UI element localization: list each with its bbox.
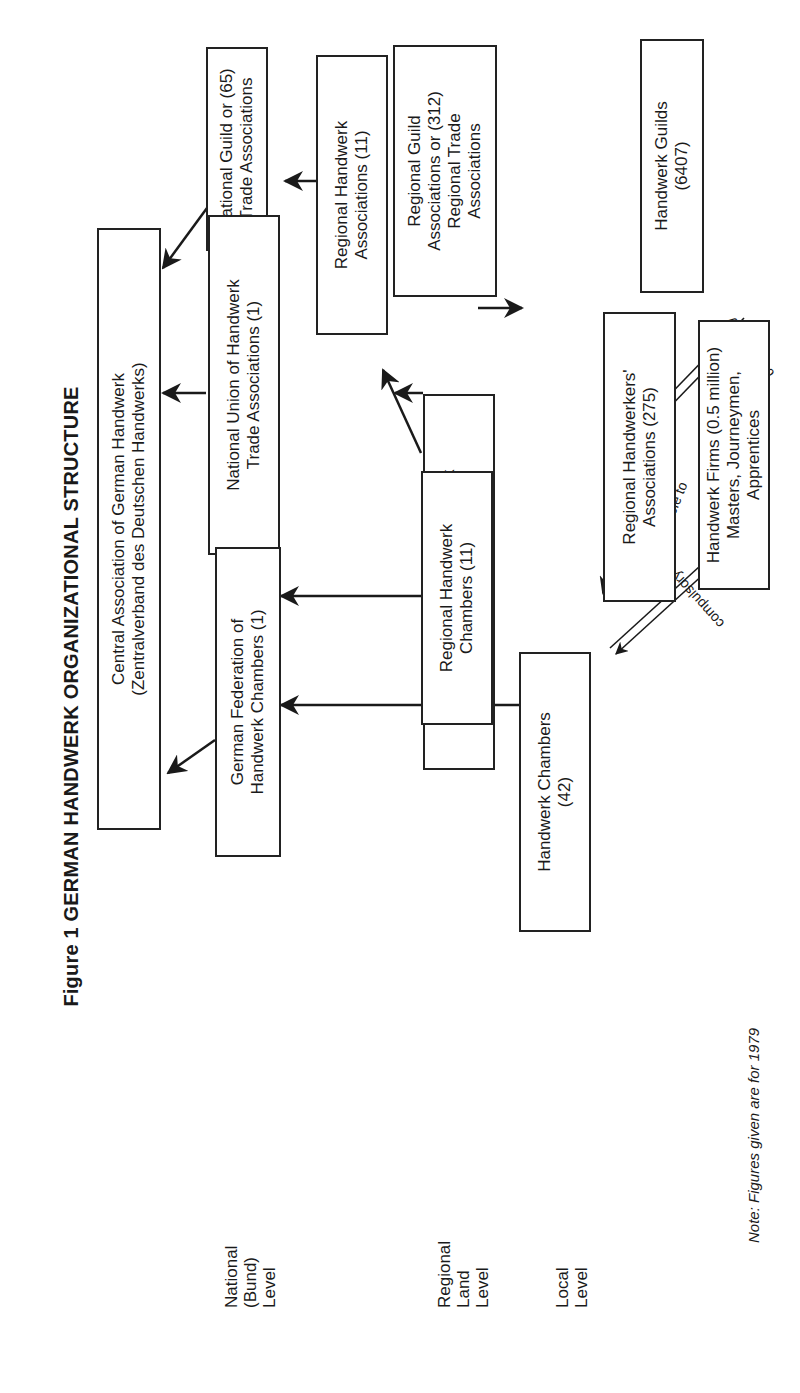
rotated-figure-page: Figure 1 GERMAN HANDWERK ORGANIZATIONAL …	[0, 0, 800, 1393]
box-line: Trade Associations	[237, 68, 257, 230]
box-line: Associations (275)	[640, 369, 660, 544]
box-line: Associations (11)	[352, 121, 372, 269]
box-regional-handwerk-associations: Regional Handwerk Associations (11)	[316, 55, 388, 335]
arrow-regional-chambers-to-regional-assoc	[383, 370, 421, 453]
box-regional-guild-associations: Regional Guild Associations or (312) Reg…	[393, 45, 497, 297]
box-line: National Union of Handwerk	[224, 279, 244, 491]
box-regional-handwerkers-associations: Regional Handwerkers' Associations (275)	[603, 312, 676, 602]
box-line: Chambers (11)	[457, 524, 477, 672]
box-line: Central Association of German Handwerk	[109, 362, 129, 696]
box-line: Regional Handwerkers'	[620, 369, 640, 544]
box-line: Handwerk Chambers	[535, 712, 555, 872]
box-line: Regional Trade	[445, 91, 465, 251]
box-handwerk-firms: Handwerk Firms (0.5 million) Masters, Jo…	[698, 320, 770, 590]
box-line: Regional Handwerk	[437, 524, 457, 672]
arrow-federation-to-central	[168, 740, 215, 773]
figure-note: Note: Figures given are for 1979	[745, 1028, 762, 1243]
box-regional-chambers: Regional Handwerk Chambers (11)	[421, 471, 493, 725]
box-line: Associations or (312)	[425, 91, 445, 251]
box-line: Handwerk Firms (0.5 million)	[704, 328, 724, 582]
box-line: Trade Associations (1)	[244, 279, 264, 491]
box-national-union: National Union of Handwerk Trade Associa…	[208, 215, 280, 555]
box-line: (Zentralverband des Deutschen Handwerks)	[129, 362, 149, 696]
box-line: Regional Guild	[405, 91, 425, 251]
box-handwerk-chambers-42: Handwerk Chambers (42)	[519, 652, 591, 932]
box-line: Associations	[465, 91, 485, 251]
box-line: (42)	[555, 712, 575, 872]
box-german-federation: German Federation of Handwerk Chambers (…	[215, 547, 281, 857]
box-line: German Federation of	[228, 609, 248, 794]
box-line: Handwerk Chambers (1)	[248, 609, 268, 794]
arrow-national-guild-to-central	[163, 208, 207, 268]
box-line: Handwerk Guilds	[652, 101, 672, 230]
box-line: Regional Handwerk	[332, 121, 352, 269]
box-handwerk-guilds: Handwerk Guilds (6407)	[640, 39, 704, 293]
box-central-association: Central Association of German Handwerk (…	[97, 228, 161, 830]
box-line: (6407)	[672, 101, 692, 230]
box-line: Masters, Journeymen, Apprentices	[724, 328, 764, 582]
box-line: National Guild or (65)	[217, 68, 237, 230]
